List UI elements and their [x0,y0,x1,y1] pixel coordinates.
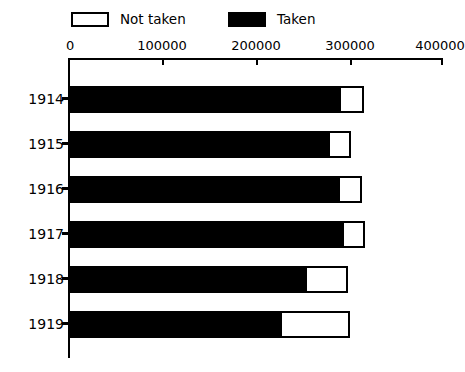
bar-taken-1914 [68,86,341,113]
bar-series-container: 1914 1915 1916 1917 1918 [0,0,465,372]
bar-taken-1917 [68,221,344,248]
bar-taken-1918 [68,266,307,293]
bar-taken-1915 [68,131,330,158]
bar-row-1916: 1916 [0,176,465,203]
y-tick-label-1919: 1919 [22,311,64,338]
y-tick-label-1917: 1917 [22,221,64,248]
bar-row-1918: 1918 [0,266,465,293]
bar-taken-1919 [68,311,282,338]
y-tick-label-1914: 1914 [22,86,64,113]
bar-row-1919: 1919 [0,311,465,338]
y-tick-label-1918: 1918 [22,266,64,293]
y-tick-label-1916: 1916 [22,176,64,203]
bar-row-1917: 1917 [0,221,465,248]
bar-taken-1916 [68,176,340,203]
y-tick-label-1915: 1915 [22,131,64,158]
bar-row-1915: 1915 [0,131,465,158]
bar-row-1914: 1914 [0,86,465,113]
stacked-bar-chart: Not taken Taken 0 100000 200000 300000 4… [0,0,465,372]
